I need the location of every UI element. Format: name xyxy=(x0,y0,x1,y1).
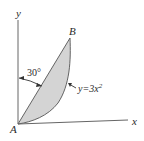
point-a-label: A xyxy=(9,123,17,135)
y-axis-label: y xyxy=(15,7,21,19)
point-b-label: B xyxy=(69,25,76,37)
shaded-region xyxy=(18,38,70,124)
curve-equation-label: y=3x2 xyxy=(77,82,103,94)
angle-label: 30° xyxy=(27,67,41,78)
curve-equation-base: y=3x xyxy=(77,83,99,94)
x-axis xyxy=(18,120,128,124)
curve-equation-exponent: 2 xyxy=(99,82,103,90)
arrow-head-left xyxy=(19,76,24,80)
diagram-canvas: y x A B 30° y=3x2 xyxy=(0,0,144,141)
x-axis-label: x xyxy=(131,115,137,127)
